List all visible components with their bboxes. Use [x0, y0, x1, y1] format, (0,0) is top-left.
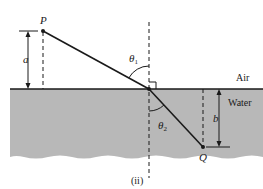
- label-air: Air: [236, 72, 250, 83]
- theta1-arc: [129, 66, 149, 78]
- label-p: P: [39, 14, 47, 26]
- point-q: [201, 145, 205, 149]
- dimension-a-arrow-top-icon: [26, 31, 31, 37]
- refraction-diagram: P Q a b θ1 θ2 Air Water (ii): [0, 0, 263, 189]
- point-p: [41, 29, 45, 33]
- label-b: b: [213, 112, 219, 124]
- label-water: Water: [228, 97, 252, 108]
- water-region: [10, 89, 263, 159]
- dimension-a-arrow-bottom-icon: [26, 83, 31, 89]
- label-a: a: [23, 53, 29, 65]
- point-incidence: [147, 87, 151, 91]
- figure-caption: (ii): [131, 175, 143, 187]
- label-theta1: θ1: [129, 52, 138, 66]
- label-q: Q: [199, 151, 207, 163]
